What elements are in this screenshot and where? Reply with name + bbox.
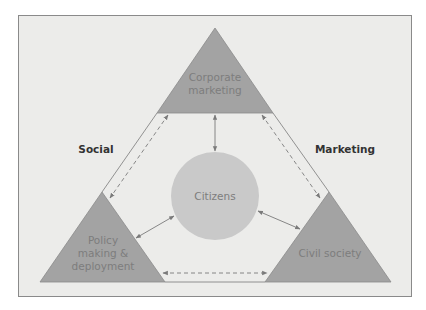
label-civil-society: Civil society: [298, 247, 361, 259]
label-policy-line2: making &: [78, 247, 129, 259]
side-label-marketing: Marketing: [315, 143, 375, 155]
label-corporate-line2: marketing: [188, 84, 242, 96]
label-citizens: Citizens: [194, 190, 235, 202]
label-corporate-line1: Corporate: [189, 71, 242, 83]
label-policy-line1: Policy: [88, 234, 118, 246]
side-label-social: Social: [78, 143, 113, 155]
label-policy-line3: deployment: [72, 260, 135, 272]
diagram-canvas: Corporate marketing Policy making & depl…: [0, 0, 426, 310]
